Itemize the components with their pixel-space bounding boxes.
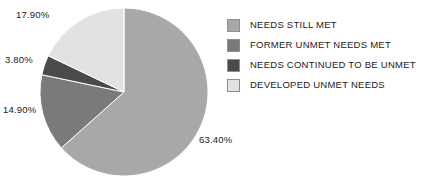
slice-value-former-unmet-needs-met: 14.90% <box>3 105 36 115</box>
chart-legend: NEEDS STILL MET FORMER UNMET NEEDS MET N… <box>227 15 432 95</box>
legend-item: FORMER UNMET NEEDS MET <box>227 35 432 55</box>
legend-swatch-icon <box>227 19 240 32</box>
legend-item-label: FORMER UNMET NEEDS MET <box>250 40 391 50</box>
pie-chart-graphic <box>40 8 208 176</box>
slice-value-needs-still-met: 63.40% <box>199 135 232 145</box>
pie-slice-group <box>40 8 208 176</box>
legend-swatch-icon <box>227 79 240 92</box>
legend-item: DEVELOPED UNMET NEEDS <box>227 75 432 95</box>
legend-item-label: NEEDS STILL MET <box>250 20 337 30</box>
slice-value-developed-unmet-needs: 17.90% <box>16 10 49 20</box>
legend-item-label: DEVELOPED UNMET NEEDS <box>250 80 385 90</box>
legend-swatch-icon <box>227 39 240 52</box>
slice-value-needs-continued-to-be-unmet: 3.80% <box>5 55 33 65</box>
legend-item: NEEDS CONTINUED TO BE UNMET <box>227 55 432 75</box>
legend-item: NEEDS STILL MET <box>227 15 432 35</box>
pie-chart-figure: 17.90% 3.80% 14.90% 63.40% NEEDS STILL M… <box>0 0 434 181</box>
pie-svg <box>40 8 208 176</box>
legend-swatch-icon <box>227 59 240 72</box>
legend-item-label: NEEDS CONTINUED TO BE UNMET <box>250 60 416 70</box>
